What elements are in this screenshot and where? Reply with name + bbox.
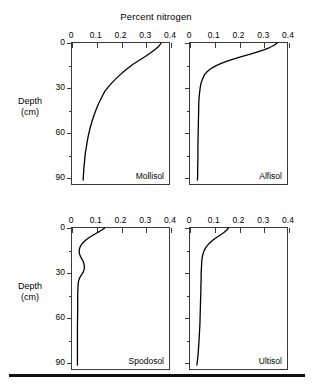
chart-title: Percent nitrogen — [0, 11, 312, 22]
x-tick-labels-alfisol: 00.10.20.30.4 — [189, 30, 288, 42]
x-tick-label-0.2: 0.2 — [115, 30, 127, 40]
x-tick-0.4 — [171, 43, 172, 48]
x-tick-label-0.2: 0.2 — [233, 30, 245, 40]
y-tick-label-0: 0 — [60, 37, 65, 47]
panel-ultisol: Ultisol — [189, 227, 288, 370]
x-tick-label-0.4: 0.4 — [164, 30, 176, 40]
x-tick-label-0.2: 0.2 — [233, 215, 245, 225]
panel-spodosol: Spodosol — [71, 227, 170, 370]
x-tick-label-0.3: 0.3 — [257, 30, 269, 40]
bottom-rule-divider — [9, 374, 305, 377]
curve-mollisol — [72, 43, 171, 186]
panel-alfisol: Alfisol — [189, 42, 288, 185]
curve-spodosol — [72, 228, 171, 371]
y-tick-label-30: 30 — [56, 267, 65, 277]
x-tick-label-0.4: 0.4 — [282, 215, 294, 225]
y-tick-labels-row0: 0306090 — [43, 42, 65, 185]
y-tick-label-60: 60 — [56, 312, 65, 322]
curve-ultisol — [190, 228, 289, 371]
x-tick-label-0: 0 — [187, 30, 192, 40]
x-tick-label-0.1: 0.1 — [90, 215, 102, 225]
x-tick-label-0.3: 0.3 — [139, 30, 151, 40]
x-tick-labels-spodosol: 00.10.20.30.4 — [71, 215, 170, 227]
y-tick-label-0: 0 — [60, 222, 65, 232]
y-tick-label-60: 60 — [56, 127, 65, 137]
x-tick-label-0: 0 — [69, 215, 74, 225]
x-tick-0.4 — [289, 43, 290, 48]
x-tick-label-0.4: 0.4 — [282, 30, 294, 40]
x-tick-label-0: 0 — [187, 215, 192, 225]
y-tick-label-30: 30 — [56, 82, 65, 92]
x-tick-label-0.4: 0.4 — [164, 215, 176, 225]
y-tick-labels-row1: 0306090 — [43, 227, 65, 370]
x-tick-label-0.1: 0.1 — [90, 30, 102, 40]
y-tick-label-90: 90 — [56, 357, 65, 367]
x-tick-label-0.3: 0.3 — [257, 215, 269, 225]
y-tick-label-90: 90 — [56, 172, 65, 182]
x-tick-label-0.1: 0.1 — [208, 30, 220, 40]
x-tick-label-0.1: 0.1 — [208, 215, 220, 225]
x-tick-labels-ultisol: 00.10.20.30.4 — [189, 215, 288, 227]
panel-mollisol: Mollisol — [71, 42, 170, 185]
x-tick-label-0.2: 0.2 — [115, 215, 127, 225]
x-tick-label-0.3: 0.3 — [139, 215, 151, 225]
curve-alfisol — [190, 43, 289, 186]
nitrogen-depth-profile-figure: Percent nitrogen Depth (cm) Depth (cm) M… — [0, 0, 312, 385]
x-tick-0.4 — [171, 228, 172, 233]
x-tick-label-0: 0 — [69, 30, 74, 40]
x-tick-labels-mollisol: 00.10.20.30.4 — [71, 30, 170, 42]
x-tick-0.4 — [289, 228, 290, 233]
